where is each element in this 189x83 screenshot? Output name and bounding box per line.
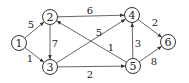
node-5: 5 [126,59,141,74]
edge-weight-label: 1 [27,53,33,64]
edge-weight-label: 7 [52,38,58,49]
edge-weight-label: 8 [151,56,157,67]
node-1: 1 [12,36,27,51]
node-label: 4 [129,9,136,22]
graph-diagram: 5176512328 123456 [0,0,189,83]
node-label: 2 [47,11,54,24]
node-label: 6 [165,36,172,49]
node-2: 2 [43,10,58,25]
edge-weight-label: 5 [96,27,102,38]
node-3: 3 [43,60,58,75]
arrow-icon [57,66,125,67]
node-label: 5 [130,60,137,73]
edge-weight-label: 1 [108,42,114,53]
edge-weight-label: 2 [152,17,158,28]
node-label: 3 [47,61,54,74]
edge-weight-label: 6 [87,5,93,16]
node-label: 1 [16,37,23,50]
node-6: 6 [161,35,176,50]
edge-weight-label: 5 [28,19,34,30]
edge-5-4 [132,23,133,59]
edge-weight-label: 2 [87,69,93,80]
node-4: 4 [125,8,140,23]
edge-3-5 [57,66,125,67]
edge-weight-label: 3 [135,38,141,49]
arrow-icon [132,23,133,59]
